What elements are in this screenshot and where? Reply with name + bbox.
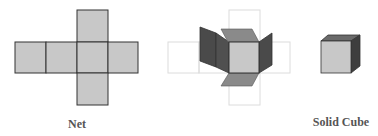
fold-face-center bbox=[229, 42, 259, 73]
net-face-bottom bbox=[77, 73, 108, 105]
fold-flap-bottom bbox=[221, 73, 259, 86]
fold-flap-right bbox=[259, 33, 272, 73]
net-face-right bbox=[108, 42, 138, 73]
net-face-left-outer bbox=[15, 42, 46, 73]
net-face-top bbox=[77, 10, 108, 42]
net-figure bbox=[15, 10, 138, 105]
solid-cube-figure bbox=[321, 35, 360, 73]
net-face-left bbox=[46, 42, 77, 73]
cube-face-front bbox=[321, 41, 351, 73]
fold-flap-top bbox=[221, 29, 259, 42]
net-label: Net bbox=[68, 117, 86, 132]
net-face-center bbox=[77, 42, 108, 73]
fold-flap-left-outer bbox=[200, 27, 216, 67]
cube-face-side bbox=[351, 35, 360, 73]
solid-cube-label: Solid Cube bbox=[313, 115, 369, 130]
folding-figure bbox=[168, 10, 290, 105]
